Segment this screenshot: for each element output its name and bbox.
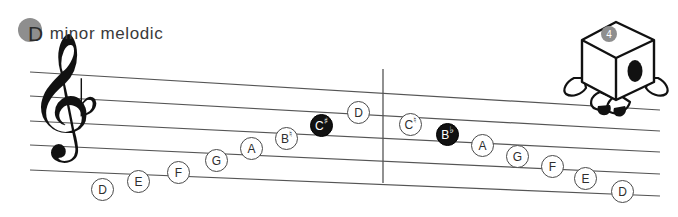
note-letter: A: [478, 140, 486, 152]
note-letter: C: [315, 120, 324, 132]
mascot-badge-number: 4: [601, 26, 617, 42]
score-page: D minor melodic 𝄞 ♭ DEFGAB♮C♯DC♮B♭AGFED: [0, 0, 678, 217]
note-f-n3[interactable]: F: [167, 161, 190, 184]
note-letter: G: [513, 151, 522, 163]
note-b-n6[interactable]: B♮: [275, 127, 298, 150]
note-letter: F: [549, 161, 556, 173]
note-accidental-icon: ♮: [413, 116, 416, 125]
note-e-n14[interactable]: E: [574, 167, 597, 190]
staff-line-1: [30, 170, 660, 196]
note-c-n9[interactable]: C♮: [399, 113, 422, 136]
note-a-n5[interactable]: A: [240, 137, 263, 160]
note-letter: B: [281, 133, 289, 145]
note-accidental-icon: ♭: [449, 126, 453, 135]
note-accidental-icon: ♮: [289, 130, 292, 139]
note-g-n12[interactable]: G: [506, 145, 529, 168]
note-a-n11[interactable]: A: [471, 134, 494, 157]
note-letter: C: [405, 119, 414, 131]
note-f-n13[interactable]: F: [541, 155, 564, 178]
note-letter: D: [354, 107, 363, 119]
note-letter: A: [247, 143, 255, 155]
key-signature-flat-icon: ♭: [76, 72, 101, 124]
note-letter: G: [212, 155, 221, 167]
note-d-n8[interactable]: D: [347, 101, 370, 124]
note-accidental-icon: ♯: [324, 117, 328, 126]
note-g-n4[interactable]: G: [205, 149, 228, 172]
note-d-n1[interactable]: D: [91, 178, 114, 201]
note-letter: E: [134, 176, 142, 188]
title-key-letter: D: [28, 23, 44, 44]
note-letter: B: [441, 129, 449, 141]
title-scale-name: minor melodic: [50, 25, 164, 42]
note-c-n7[interactable]: C♯: [310, 114, 333, 137]
note-letter: F: [175, 167, 182, 179]
cube-character-icon: [560, 8, 672, 118]
note-e-n2[interactable]: E: [127, 170, 150, 193]
staff-line-2: [30, 145, 660, 174]
note-b-n10[interactable]: B♭: [436, 123, 459, 146]
note-letter: D: [618, 186, 627, 198]
note-d-n15[interactable]: D: [611, 180, 634, 203]
note-letter: E: [581, 173, 589, 185]
note-letter: D: [98, 184, 107, 196]
